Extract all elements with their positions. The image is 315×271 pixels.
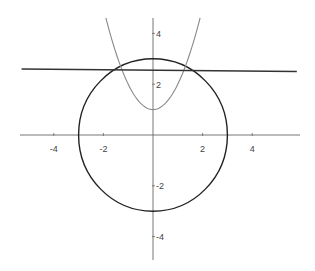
horizontal-line xyxy=(22,69,297,72)
ticks: -4-22442-2-4 xyxy=(50,29,255,242)
x-tick-label: 4 xyxy=(250,144,255,154)
x-tick-label: -2 xyxy=(99,144,107,154)
x-tick-label: -4 xyxy=(50,144,58,154)
y-tick-label: -4 xyxy=(156,232,164,242)
plot-area: -4-22442-2-4 xyxy=(0,0,315,271)
y-tick-label: -2 xyxy=(156,181,164,191)
x-tick-label: 2 xyxy=(200,144,205,154)
y-tick-label: 4 xyxy=(156,29,161,39)
y-tick-label: 2 xyxy=(156,80,161,90)
axes xyxy=(20,18,300,260)
